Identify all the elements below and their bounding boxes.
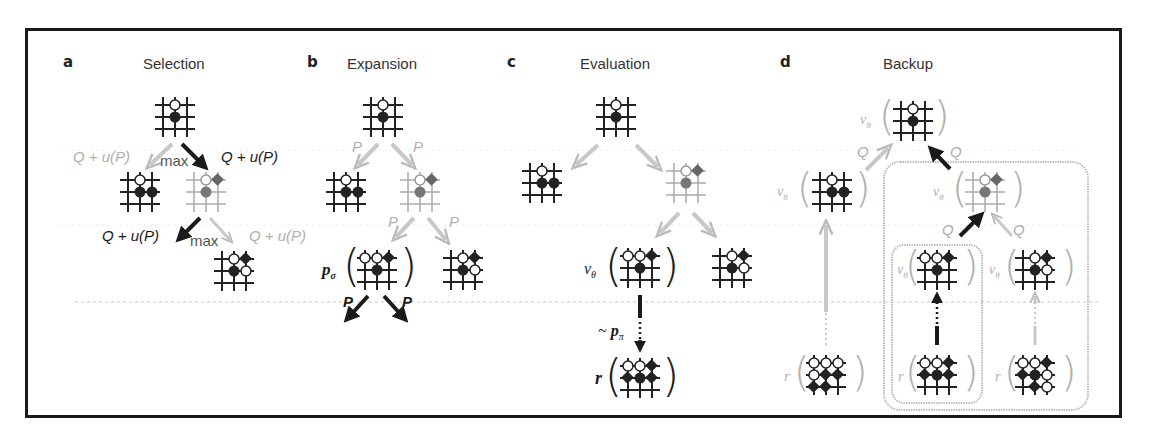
panel-title-evaluation: Evaluation [580,55,650,72]
selection-edge-label-right: Q + u(P) [221,148,278,165]
pi-subscript: π [619,331,624,342]
evaluation-sibling-board [712,248,752,288]
faint-arrow [636,145,658,167]
expansion-p-label: P [388,213,398,230]
backup-q-label: Q [857,143,869,160]
backup-left-board [812,172,852,212]
right-paren: ) [662,244,679,288]
evaluation-right-board [666,163,706,203]
backup-reward-label: r [784,368,790,385]
backup-sibling-board [1015,250,1055,290]
left-paren: ( [794,352,810,392]
backup-q-label: Q [1013,221,1025,238]
evaluation-leaf-board [620,248,660,288]
left-paren: ( [1004,246,1020,286]
selection-max-label-bottom: max [190,232,218,249]
mcts-figure: a Selection b Expansion c Evaluation d B… [0,0,1156,443]
backup-right-terminal-board [1015,355,1055,395]
evaluation-terminal-board [620,358,660,398]
panel-title-backup: Backup [883,55,933,72]
left-paren: ( [797,168,813,208]
faint-arrow [396,218,414,237]
expansion-p-label: P [413,138,423,155]
theta-subscript: θ [995,270,999,280]
selection-right-board [186,172,226,212]
backup-value-label: vθ [777,184,788,202]
selection-edge-label-left: Q + u(P) [73,148,130,165]
value-network-label: vθ [584,260,596,280]
backup-arrow [960,216,980,236]
selection-edge-label-right-2: Q + u(P) [249,227,306,244]
left-paren: ( [952,168,968,208]
evaluation-left-board [522,163,562,203]
expansion-left-board [326,172,366,212]
expansion-sibling-board [443,250,483,290]
reward-label: r [595,368,602,389]
faint-arrow [994,216,1012,236]
faint-arrow [392,144,412,165]
selection-edge-label-left-2: Q + u(P) [102,227,159,244]
backup-left-terminal-board [806,355,846,395]
right-paren: ) [1061,352,1077,392]
backup-reward-label: r [995,368,1001,385]
backup-q-label: Q [942,221,954,238]
left-paren: ( [905,246,921,286]
right-paren: ) [1010,168,1026,208]
theta-subscript: θ [783,192,787,202]
backup-mid-terminal-board [917,355,957,395]
panel-letter-a: a [63,53,73,71]
p-sigma-symbol: p [322,260,331,279]
expansion-leaf-board [357,250,397,290]
left-paren: ( [605,354,622,398]
faint-arrow [428,218,446,240]
panel-letter-d: d [780,53,791,71]
panel-letter-b: b [307,53,318,71]
backup-value-label: vθ [860,112,871,130]
backup-leaf-board [917,250,957,290]
selection-root-board [155,97,195,137]
right-paren: ) [1061,246,1077,286]
faint-arrow [660,213,679,233]
backup-arrow [932,150,950,169]
right-paren: ) [400,244,417,288]
expansion-p-label: P [449,213,459,230]
left-paren: ( [1004,352,1020,392]
right-paren: ) [963,352,979,392]
left-paren: ( [343,244,360,288]
p-pi-symbol: p [611,322,619,339]
backup-reward-label: r [898,368,904,385]
panel-title-selection: Selection [143,55,205,72]
right-paren: ) [852,352,868,392]
theta-subscript: θ [591,269,596,280]
selection-max-label-top: max [160,152,188,169]
selection-left-board [120,172,160,212]
expansion-right-board [400,172,440,212]
selection-leaf-board [214,251,254,291]
theta-subscript: θ [866,120,870,130]
tilde-symbol: ~ [598,322,607,339]
backup-mid-board [965,172,1005,212]
expansion-p-label: P [352,138,362,155]
right-paren: ) [934,96,950,136]
right-paren: ) [662,354,679,398]
right-paren: ) [855,168,871,208]
left-paren: ( [879,96,895,136]
rollout-policy-label: ~ pπ [598,322,624,342]
left-paren: ( [905,352,921,392]
panel-title-expansion: Expansion [347,55,417,72]
right-paren: ) [963,246,979,286]
expansion-out-p-label: P [343,293,353,310]
faint-arrow [693,213,712,233]
backup-root-board [893,101,933,141]
expand-arrow [384,296,404,318]
sigma-subscript: σ [331,270,336,281]
left-paren: ( [605,244,622,288]
backup-value-label: vθ [933,184,944,202]
backup-q-label: Q [950,143,962,160]
expansion-root-board [363,97,403,137]
policy-network-label: pσ [322,260,336,281]
expansion-out-p-label: P [402,293,412,310]
evaluation-root-board [596,97,636,137]
backup-value-label: vθ [989,262,1000,280]
theta-subscript: θ [939,192,943,202]
